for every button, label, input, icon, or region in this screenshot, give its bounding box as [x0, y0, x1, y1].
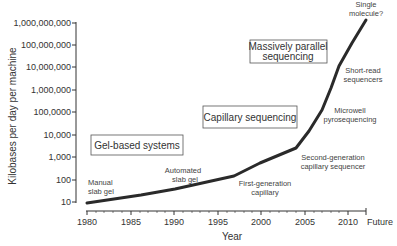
y-tick-label: 10 — [61, 197, 71, 207]
x-tick-label: 1990 — [164, 217, 184, 227]
era-box-gel: Gel-based systems — [91, 135, 183, 155]
svg-text:Automated: Automated — [165, 166, 201, 175]
svg-text:Single: Single — [356, 0, 377, 9]
x-axis-title: Year — [222, 231, 243, 242]
svg-text:sequencers: sequencers — [344, 75, 383, 84]
annotation-short-read-sequencers: Short-read sequencers — [344, 66, 383, 84]
svg-text:Microwell: Microwell — [334, 106, 366, 115]
annotation-second-generation-capillary: Second-generation capillary sequencer — [301, 153, 366, 171]
x-tick-label: Future — [367, 217, 393, 227]
annotation-manual-slab-gel: Manual slab gel — [88, 178, 114, 196]
y-ticks — [72, 23, 76, 202]
annotation-first-generation-capillary: First-generation capillary — [239, 179, 292, 197]
y-tick-label: 100,0000 — [33, 107, 71, 117]
x-tick-label: 1985 — [121, 217, 141, 227]
svg-text:First-generation: First-generation — [239, 179, 292, 188]
y-tick-label: 1,000,000,000 — [13, 18, 71, 28]
y-tick-label: 1,000,000 — [31, 85, 71, 95]
y-tick-label: 100 — [56, 175, 71, 185]
svg-text:Short-read: Short-read — [345, 66, 380, 75]
svg-text:Manual: Manual — [88, 178, 113, 187]
svg-text:pyrosequencing: pyrosequencing — [324, 115, 377, 124]
era-box-label: Gel-based systems — [94, 140, 180, 151]
svg-text:capillary sequencer: capillary sequencer — [301, 162, 366, 171]
x-tick-labels: 1980 1985 1990 1995 2000 2005 2010 Futur… — [77, 217, 393, 227]
annotation-automated-slab-gel: Automated slab gel — [165, 166, 201, 184]
y-tick-label: 10,000,000 — [26, 62, 71, 72]
y-tick-label: 100,000,000 — [21, 40, 71, 50]
y-tick-label: 10,000 — [43, 130, 71, 140]
svg-text:molecule?: molecule? — [349, 9, 383, 18]
x-tick-label: 1980 — [77, 217, 97, 227]
svg-text:slab gel: slab gel — [88, 187, 114, 196]
x-tick-label: 2010 — [338, 217, 358, 227]
x-tick-label: 2005 — [295, 217, 315, 227]
x-tick-label: 1995 — [208, 217, 228, 227]
x-tick-label: 2000 — [251, 217, 271, 227]
era-box-capillary: Capillary sequencing — [203, 106, 297, 128]
era-box-label: Capillary sequencing — [204, 112, 297, 123]
annotation-microwell-pyrosequencing: Microwell pyrosequencing — [324, 106, 377, 124]
era-box-label: sequencing — [262, 51, 313, 62]
era-box-massively-parallel: Massively parallel sequencing — [249, 40, 328, 63]
y-tick-labels: 1,000,000,000 100,000,000 10,000,000 1,0… — [13, 18, 71, 207]
y-axis-title: Kilobases per day per machine — [7, 47, 18, 185]
sequencing-throughput-chart: 1,000,000,000 100,000,000 10,000,000 1,0… — [0, 0, 397, 246]
svg-text:capillary: capillary — [251, 188, 279, 197]
svg-text:Second-generation: Second-generation — [301, 153, 364, 162]
annotation-single-molecule: Single molecule? — [349, 0, 383, 18]
svg-text:slab gel: slab gel — [172, 175, 198, 184]
y-tick-label: 1,000 — [48, 152, 71, 162]
